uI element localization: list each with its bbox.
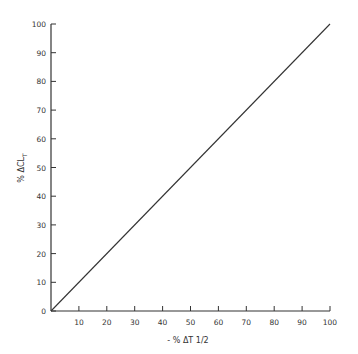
data-line	[51, 24, 330, 311]
y-axis-ticks: 0102030405060708090100	[32, 20, 56, 316]
y-tick-label: 50	[36, 164, 46, 173]
x-tick-label: 30	[130, 318, 140, 327]
y-axis-label-main: % ΔCL	[17, 156, 26, 182]
y-tick-label: 90	[36, 49, 46, 58]
y-tick-label: 70	[36, 106, 46, 115]
x-tick-label: 10	[74, 318, 84, 327]
x-tick-label: 80	[269, 318, 279, 327]
y-tick-label: 20	[36, 250, 46, 259]
y-tick-label: 0	[41, 307, 46, 316]
y-tick-label: 10	[36, 278, 46, 287]
y-tick-label: 60	[36, 135, 46, 144]
x-axis-ticks: 102030405060708090100	[74, 306, 337, 327]
y-tick-label: 40	[36, 192, 46, 201]
svg-text:% ΔCLT: % ΔCLT	[17, 153, 28, 183]
x-axis-label: - % ΔT 1/2	[167, 336, 208, 345]
y-axis-label: % ΔCLT	[17, 153, 28, 183]
y-tick-label: 100	[32, 20, 47, 29]
x-tick-label: 90	[297, 318, 307, 327]
x-tick-label: 100	[323, 318, 338, 327]
x-tick-label: 60	[214, 318, 224, 327]
x-tick-label: 70	[242, 318, 252, 327]
y-tick-label: 80	[36, 77, 46, 86]
chart: 0102030405060708090100 10203040506070809…	[0, 0, 358, 354]
x-tick-label: 50	[186, 318, 196, 327]
y-axis-label-sub: T	[21, 153, 28, 158]
y-tick-label: 30	[36, 221, 46, 230]
x-tick-label: 40	[158, 318, 168, 327]
x-tick-label: 20	[102, 318, 112, 327]
